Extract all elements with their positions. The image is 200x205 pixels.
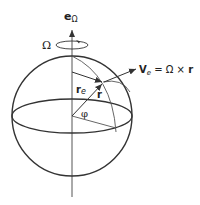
- angular-velocity-label: Ω: [42, 39, 51, 52]
- equator-radius-line: [72, 116, 116, 128]
- velocity-equation: = Ω ×: [151, 64, 188, 75]
- axis-unit-vector-label: e: [64, 10, 71, 23]
- sphere-diagram: eΩ Ω re r φ Ve = Ω × r: [0, 0, 200, 205]
- velocity-equation-r: r: [188, 64, 193, 75]
- svg-text:Ve = Ω × r: Ve = Ω × r: [139, 64, 193, 77]
- position-vector-label: r: [97, 89, 102, 100]
- rotation-arrow-icon: [76, 40, 80, 44]
- svg-text:re: re: [76, 84, 86, 96]
- angle-phi-label: φ: [81, 108, 88, 119]
- radial-vector-sub: e: [81, 87, 86, 96]
- svg-text:eΩ: eΩ: [64, 10, 78, 24]
- axis-unit-vector-sub: Ω: [71, 15, 77, 24]
